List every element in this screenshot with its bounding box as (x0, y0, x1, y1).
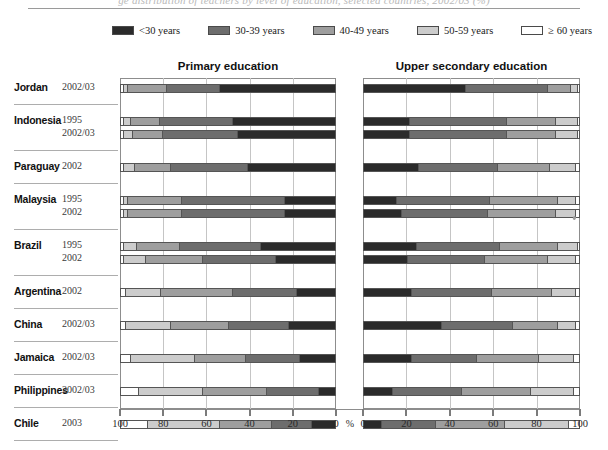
chart-legend: <30 years30-39 years40-49 years50-59 yea… (112, 22, 592, 38)
survey-year: 2002/03 (62, 351, 95, 362)
stacked-bar (120, 255, 336, 264)
bar-segment (575, 164, 579, 171)
bar-segment (555, 210, 574, 217)
bar-segment (123, 164, 134, 171)
stacked-bar (363, 242, 580, 251)
axis-tick-label: 80 (148, 418, 178, 429)
bar-segment (288, 322, 335, 329)
stacked-bar (120, 354, 336, 363)
bar-segment (547, 256, 575, 263)
country-name: Malaysia (0, 193, 62, 205)
bar-segment (162, 131, 237, 138)
legend-label: 40-49 years (340, 25, 389, 36)
bar-segment (202, 388, 266, 395)
survey-year: 2002/03 (62, 127, 95, 138)
bar-segment (547, 85, 571, 92)
row-label: Philippines2002/03 (0, 383, 118, 396)
bar-segment (489, 197, 558, 204)
survey-year: 2003 (62, 417, 82, 428)
row-label: Brazil1995 (0, 238, 118, 251)
axis-tick (405, 409, 407, 416)
group-separator (14, 183, 118, 184)
stacked-bar (363, 255, 580, 264)
row-label: Paraguay2002 (0, 159, 118, 172)
axis-tick (492, 409, 494, 416)
bar-segment (130, 355, 194, 362)
row-label: China2002/03 (0, 317, 118, 330)
bar-segment (364, 197, 396, 204)
bar-segment (364, 322, 441, 329)
stacked-bar (363, 209, 580, 218)
bar-segment (194, 355, 245, 362)
percent-symbol: % (342, 418, 358, 429)
bar-segment (506, 131, 555, 138)
axis-tick-label: 80 (522, 418, 552, 429)
survey-year: 2002 (62, 285, 82, 296)
bar-segment (145, 256, 203, 263)
survey-year: 2002/03 (62, 318, 95, 329)
bar-segment (125, 322, 170, 329)
bar-segment (260, 243, 335, 250)
bar-segment (284, 197, 335, 204)
stacked-bar (120, 163, 336, 172)
country-name: Indonesia (0, 114, 62, 126)
bar-segment (577, 243, 579, 250)
axis-tick-label: 100 (565, 418, 595, 429)
bar-segment (557, 322, 574, 329)
bar-segment (577, 131, 579, 138)
survey-year: 2002/03 (62, 81, 95, 92)
survey-year: 1995 (62, 193, 82, 204)
stacked-bar (363, 321, 580, 330)
bar-segment (127, 210, 181, 217)
bar-segment (465, 85, 547, 92)
country-name: China (0, 318, 62, 330)
country-name: Jordan (0, 81, 62, 93)
row-label: 2002 (0, 251, 118, 264)
row-label: Jordan2002/03 (0, 80, 118, 93)
bar-segment (364, 243, 416, 250)
bar-segment (123, 131, 132, 138)
stacked-bar (363, 387, 580, 396)
axis-tick-label: 100 (105, 418, 135, 429)
bar-segment (181, 210, 284, 217)
axis-tick (205, 409, 207, 416)
bar-segment (411, 355, 476, 362)
bar-segment (555, 131, 577, 138)
group-separator (14, 308, 118, 309)
stacked-bar (120, 117, 336, 126)
country-name: Paraguay (0, 160, 62, 172)
legend-item: ≥ 60 years (521, 25, 592, 36)
legend-swatch-icon (521, 26, 543, 35)
legend-label: ≥ 60 years (548, 25, 592, 36)
bar-segment (407, 256, 484, 263)
bar-segment (364, 164, 418, 171)
x-axis-line (120, 409, 580, 410)
row-label: Chile2003 (0, 416, 118, 429)
bar-segment (318, 388, 335, 395)
bar-segment (134, 164, 170, 171)
bar-segment (121, 355, 130, 362)
row-label: 2002/03 (0, 126, 118, 139)
bar-segment (299, 355, 335, 362)
bar-segment (296, 289, 335, 296)
bar-segment (121, 388, 138, 395)
bar-segment (418, 164, 498, 171)
legend-swatch-icon (417, 26, 439, 35)
bar-segment (392, 388, 461, 395)
bar-segment (364, 210, 401, 217)
bar-segment (416, 243, 500, 250)
country-name: Chile (0, 417, 62, 429)
bar-segment (275, 256, 335, 263)
axis-tick (119, 409, 121, 416)
survey-year: 1995 (62, 239, 82, 250)
bar-segment (441, 322, 512, 329)
bar-segment (202, 256, 275, 263)
country-name: Argentina (0, 285, 62, 297)
plot-frame-top (120, 78, 336, 79)
stacked-bar (120, 209, 336, 218)
row-label: 2002 (0, 205, 118, 218)
stacked-bar (363, 163, 580, 172)
bar-segment (123, 256, 144, 263)
country-name: Jamaica (0, 351, 62, 363)
panel-title-secondary: Upper secondary education (363, 60, 580, 72)
